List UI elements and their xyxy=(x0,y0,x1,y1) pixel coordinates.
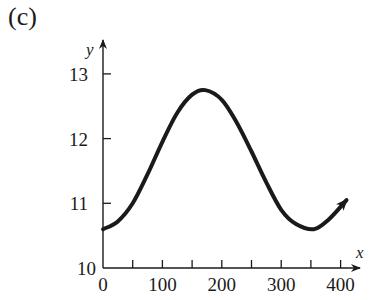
y-axis-label: y xyxy=(84,40,94,59)
x-tick-label: 200 xyxy=(208,274,237,295)
line-chart: xy010020030040010111213 xyxy=(0,0,372,300)
tick-labels: xy010020030040010111213 xyxy=(69,40,364,295)
x-tick-label: 400 xyxy=(326,274,355,295)
ticks xyxy=(103,74,341,268)
x-tick-label: 100 xyxy=(148,274,177,295)
y-tick-label: 13 xyxy=(69,64,88,85)
y-tick-label: 12 xyxy=(69,129,88,150)
x-axis-label: x xyxy=(355,243,364,262)
axes xyxy=(103,40,360,268)
x-tick-label: 300 xyxy=(267,274,296,295)
y-tick-label: 11 xyxy=(70,193,88,214)
y-tick-label: 10 xyxy=(77,258,96,279)
data-curve xyxy=(103,90,347,229)
x-tick-label: 0 xyxy=(98,274,108,295)
